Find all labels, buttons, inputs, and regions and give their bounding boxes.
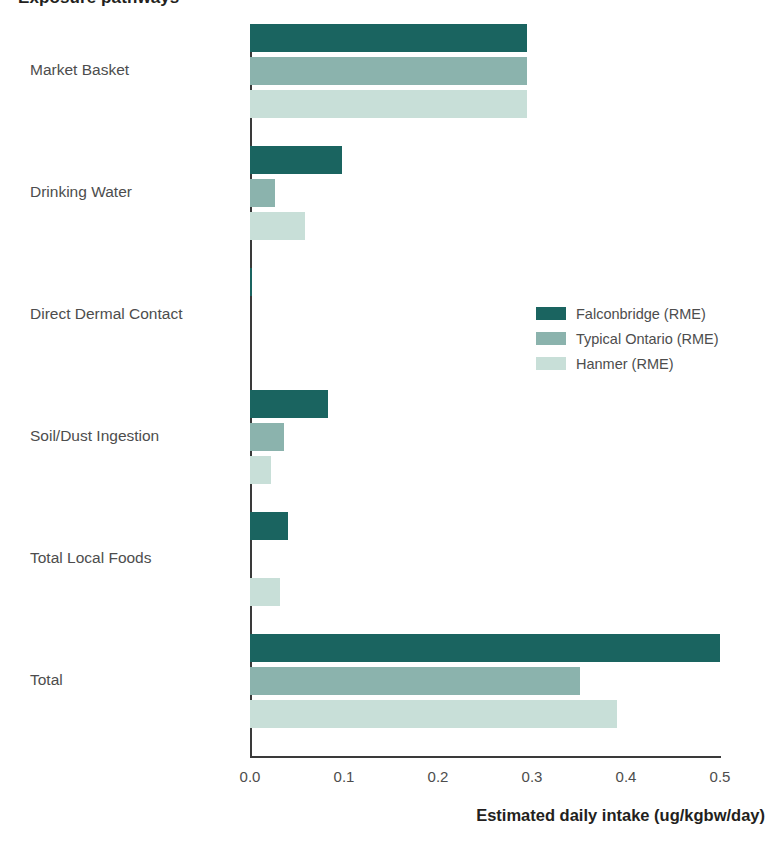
bar-row <box>250 24 720 52</box>
bar[interactable] <box>250 24 527 52</box>
bar[interactable] <box>250 700 617 728</box>
bar-group <box>250 390 720 489</box>
legend-label: Hanmer (RME) <box>576 356 673 372</box>
legend-swatch-icon <box>536 332 566 345</box>
bar[interactable] <box>250 423 284 451</box>
bar-group <box>250 512 720 611</box>
bar[interactable] <box>250 268 252 296</box>
legend-swatch-icon <box>536 307 566 320</box>
x-tick-label: 0.1 <box>314 768 374 785</box>
category-label: Market Basket <box>30 61 240 79</box>
bar-row <box>250 90 720 118</box>
bar-row <box>250 179 720 207</box>
category-label: Total <box>30 671 240 689</box>
bar[interactable] <box>250 179 275 207</box>
bar[interactable] <box>250 512 288 540</box>
x-tick-label: 0.4 <box>596 768 656 785</box>
plot-area <box>250 24 720 757</box>
bar[interactable] <box>250 146 342 174</box>
x-tick-label: 0.3 <box>502 768 562 785</box>
legend-item[interactable]: Typical Ontario (RME) <box>536 327 776 350</box>
category-label: Drinking Water <box>30 183 240 201</box>
bar-row <box>250 512 720 540</box>
bar-row <box>250 57 720 85</box>
bar-row <box>250 212 720 240</box>
chart-title: Exposure pathways <box>18 0 438 6</box>
legend-label: Falconbridge (RME) <box>576 306 706 322</box>
x-tick-label: 0.5 <box>690 768 750 785</box>
bar-row <box>250 268 720 296</box>
bar-row <box>250 634 720 662</box>
bar-group <box>250 634 720 733</box>
bar[interactable] <box>250 667 580 695</box>
bar-row <box>250 146 720 174</box>
bar-group <box>250 24 720 123</box>
legend-swatch-icon <box>536 357 566 370</box>
x-tick-label: 0.2 <box>408 768 468 785</box>
legend-item[interactable]: Falconbridge (RME) <box>536 302 776 325</box>
chart-legend: Falconbridge (RME)Typical Ontario (RME)H… <box>536 302 776 377</box>
x-tick-label: 0.0 <box>220 768 280 785</box>
bar-row <box>250 545 720 573</box>
bar[interactable] <box>250 456 271 484</box>
bar[interactable] <box>250 212 305 240</box>
category-label: Direct Dermal Contact <box>30 305 240 323</box>
bar[interactable] <box>250 390 328 418</box>
chart-figure: Exposure pathways Market BasketDrinking … <box>0 0 783 841</box>
category-label: Total Local Foods <box>30 549 240 567</box>
legend-label: Typical Ontario (RME) <box>576 331 719 347</box>
bar[interactable] <box>250 634 720 662</box>
legend-item[interactable]: Hanmer (RME) <box>536 352 776 375</box>
x-axis-title: Estimated daily intake (ug/kgbw/day) <box>0 806 765 825</box>
bar-row <box>250 390 720 418</box>
bar[interactable] <box>250 578 280 606</box>
bar-row <box>250 456 720 484</box>
bar-row <box>250 423 720 451</box>
bar-row <box>250 667 720 695</box>
bar-row <box>250 578 720 606</box>
bar-row <box>250 700 720 728</box>
bar[interactable] <box>250 90 527 118</box>
bar[interactable] <box>250 57 527 85</box>
category-label: Soil/Dust Ingestion <box>30 427 240 445</box>
bar-group <box>250 146 720 245</box>
